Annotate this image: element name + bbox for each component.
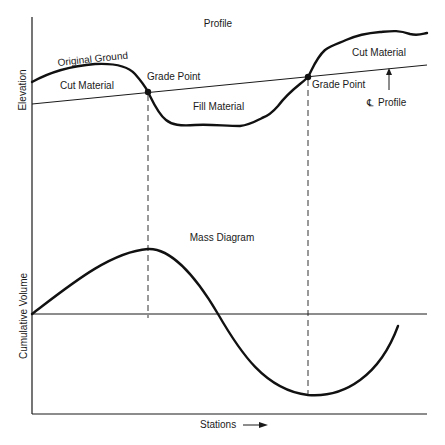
elevation-axis-label: Elevation [17,69,28,110]
cut-material-left-label: Cut Material [60,80,114,91]
arrow-right-icon [259,422,268,428]
mass-diagram-title: Mass Diagram [190,232,254,243]
mass-curve [32,249,398,395]
earthwork-diagram: Profile Elevation Original Ground Cut Ma… [0,0,445,445]
fill-material-label: Fill Material [193,101,244,112]
cut-material-right-label: Cut Material [352,47,406,58]
centerline-symbol: ℄ [366,97,374,108]
grade-point-right-label: Grade Point [312,79,366,90]
grade-point-left-marker [145,89,151,95]
grade-point-left-label: Grade Point [147,71,201,82]
centerline-profile-label: Profile [378,97,407,108]
cumulative-volume-axis-label: Cumulative Volume [18,272,29,359]
profile-title: Profile [204,18,233,29]
stations-axis-label: Stations [200,419,236,430]
grade-point-right-marker [305,74,311,80]
